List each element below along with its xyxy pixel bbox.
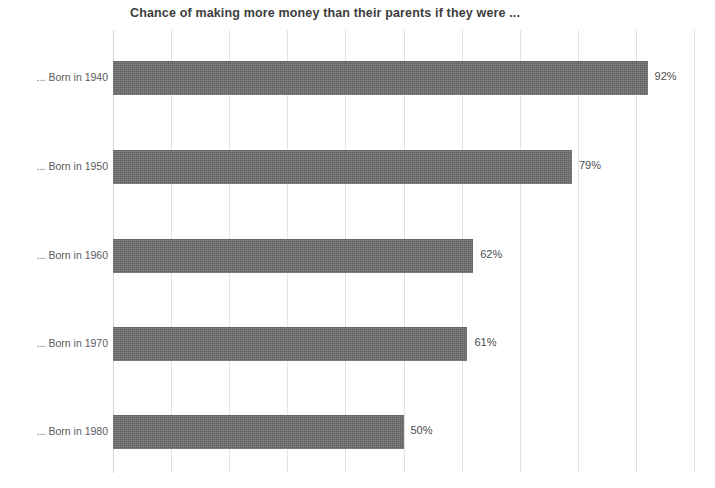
category-label: ... Born in 1940	[3, 71, 108, 83]
bar-1960[interactable]	[113, 239, 473, 273]
bar-value-label: 92%	[655, 70, 677, 82]
bar-row: 50%	[113, 415, 694, 449]
gridline-100	[694, 30, 695, 473]
bar-1970[interactable]	[113, 327, 467, 361]
bar-row: 61%	[113, 327, 694, 361]
bar-row: 79%	[113, 150, 694, 184]
category-label: ... Born in 1970	[3, 337, 108, 349]
chart-title: Chance of making more money than their p…	[130, 6, 650, 20]
bar-value-label: 62%	[480, 248, 502, 260]
bar-value-label: 61%	[474, 336, 496, 348]
bar-1940[interactable]	[113, 61, 648, 95]
category-label: ... Born in 1980	[3, 425, 108, 437]
bar-1980[interactable]	[113, 415, 404, 449]
bar-value-label: 50%	[411, 424, 433, 436]
plot-area: 92%79%62%61%50%	[113, 30, 694, 473]
bar-value-label: 79%	[579, 159, 601, 171]
category-label: ... Born in 1950	[3, 160, 108, 172]
bar-row: 62%	[113, 239, 694, 273]
category-label: ... Born in 1960	[3, 249, 108, 261]
y-axis-category-labels: ... Born in 1940... Born in 1950... Born…	[0, 30, 108, 473]
bar-1950[interactable]	[113, 150, 572, 184]
bar-chart: Chance of making more money than their p…	[0, 0, 715, 488]
bar-row: 92%	[113, 61, 694, 95]
